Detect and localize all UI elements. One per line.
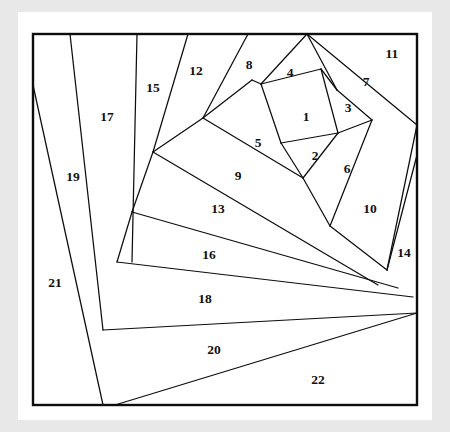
region-label-3: 3 [345, 100, 352, 115]
region-label-14: 14 [397, 245, 411, 260]
region-label-22: 22 [311, 372, 325, 387]
region-label-20: 20 [207, 342, 221, 357]
region-label-15: 15 [146, 80, 160, 95]
region-label-8: 8 [246, 57, 253, 72]
region-label-9: 9 [235, 168, 242, 183]
region-label-13: 13 [211, 201, 225, 216]
region-label-5: 5 [255, 135, 262, 150]
region-label-17: 17 [100, 109, 114, 124]
dissection-diagram: 12345678910111213141516171819202122 [0, 0, 450, 432]
region-label-2: 2 [312, 148, 319, 163]
region-label-1: 1 [303, 109, 310, 124]
region-label-18: 18 [198, 291, 212, 306]
figure-root: 12345678910111213141516171819202122 [0, 0, 450, 432]
region-label-11: 11 [386, 46, 399, 61]
region-label-4: 4 [287, 65, 294, 80]
region-label-10: 10 [363, 201, 377, 216]
region-label-21: 21 [48, 275, 62, 290]
region-label-12: 12 [189, 63, 203, 78]
region-label-16: 16 [202, 247, 216, 262]
region-label-7: 7 [363, 74, 370, 89]
region-label-6: 6 [344, 161, 351, 176]
region-label-19: 19 [66, 169, 80, 184]
